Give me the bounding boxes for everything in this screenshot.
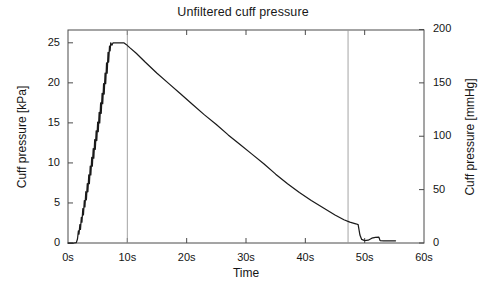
x-tick-label-20s: 20s: [174, 251, 200, 263]
x-tick-label-30s: 30s: [233, 251, 259, 263]
x-axis-label: Time: [68, 266, 424, 280]
plot-canvas: [0, 0, 486, 288]
y-tick-label-right-200: 200: [433, 22, 463, 34]
x-tick-label-50s: 50s: [352, 251, 378, 263]
x-tick-label-10s: 10s: [114, 251, 140, 263]
chart-figure: Unfiltered cuff pressure Cuff pressure […: [0, 0, 486, 288]
y-tick-label-left-10: 10: [34, 156, 60, 168]
y-axis-label-right: Cuff pressure [mmHg]: [463, 42, 477, 232]
y-axis-label-left: Cuff pressure [kPa]: [15, 42, 29, 232]
y-tick-label-right-0: 0: [433, 236, 463, 248]
y-tick-label-right-50: 50: [433, 183, 463, 195]
x-tick-label-40s: 40s: [292, 251, 318, 263]
y-tick-label-right-100: 100: [433, 129, 463, 141]
y-tick-label-left-5: 5: [34, 196, 60, 208]
x-tick-label-60s: 60s: [411, 251, 437, 263]
y-tick-label-left-0: 0: [34, 236, 60, 248]
y-tick-label-left-15: 15: [34, 116, 60, 128]
y-tick-label-right-150: 150: [433, 76, 463, 88]
x-tick-label-0s: 0s: [55, 251, 81, 263]
y-tick-label-left-20: 20: [34, 76, 60, 88]
plot-frame: [68, 30, 424, 243]
y-tick-label-left-25: 25: [34, 36, 60, 48]
series-line-0: [68, 43, 396, 243]
